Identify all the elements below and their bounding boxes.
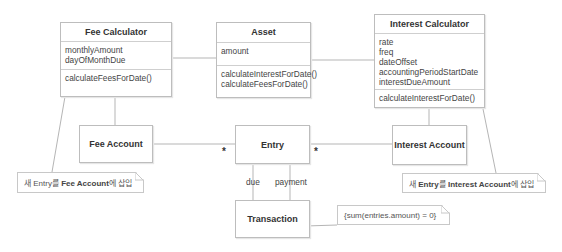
operations-section: calculateInterestForDate() calculateFees… xyxy=(217,66,310,92)
note-text-suffix: 에 삽입 xyxy=(109,179,132,188)
operation: calculateFeesForDate() xyxy=(221,79,306,89)
note-text: 새 Entry를 Interest Account에 삽입 xyxy=(409,178,534,189)
note-text-bold: Entry xyxy=(418,180,438,189)
class-asset[interactable]: Asset amount calculateInterestForDate() … xyxy=(216,22,311,98)
class-fee-calculator[interactable]: Fee Calculator monthlyAmount dayOfMonthD… xyxy=(60,22,172,97)
note-fee-account[interactable]: 새 Entry를 Fee Account에 삽입 xyxy=(17,172,144,193)
attribute: freq xyxy=(379,47,480,57)
attributes-section: rate freq dateOffset accountingPeriodSta… xyxy=(375,34,484,90)
attribute: dayOfMonthDue xyxy=(65,55,167,65)
attribute: interestDueAmount xyxy=(379,77,480,87)
class-interest-account[interactable]: Interest Account xyxy=(392,125,467,165)
note-text-mid: 를 xyxy=(439,180,448,189)
attributes-section: amount xyxy=(217,43,310,66)
class-name: Asset xyxy=(217,23,310,43)
operations-section: calculateInterestForDate() xyxy=(375,90,484,106)
note-fold-icon xyxy=(537,173,546,182)
attribute: accountingPeriodStartDate xyxy=(379,67,480,77)
note-constraint[interactable]: {sum(entries.amount) = 0} xyxy=(337,205,450,225)
note-fold-icon xyxy=(135,172,144,181)
class-name: Fee Account xyxy=(89,139,143,149)
role-label-payment: payment xyxy=(275,177,307,187)
constraint-text: {sum(entries.amount) = 0} xyxy=(344,211,436,220)
multiplicity-interest-entry: * xyxy=(314,146,318,157)
class-transaction[interactable]: Transaction xyxy=(235,200,310,238)
note-text: 새 Entry를 Fee Account에 삽입 xyxy=(24,177,132,188)
attribute: amount xyxy=(221,46,306,56)
note-text-bold2: Interest Account xyxy=(448,180,511,189)
note-text-suffix: 에 삽입 xyxy=(511,180,534,189)
class-name: Interest Account xyxy=(394,140,465,150)
note-text-prefix: 새 xyxy=(409,180,418,189)
attribute: dateOffset xyxy=(379,57,480,67)
note-interest-account[interactable]: 새 Entry를 Interest Account에 삽입 xyxy=(402,173,546,193)
operations-section: calculateFeesForDate() xyxy=(61,70,171,86)
class-name: Transaction xyxy=(247,214,298,224)
attribute: rate xyxy=(379,37,480,47)
class-name: Fee Calculator xyxy=(61,23,171,42)
note-text-bold: Fee Account xyxy=(61,179,109,188)
attribute: monthlyAmount xyxy=(65,45,167,55)
class-name: Interest Calculator xyxy=(375,15,484,34)
operation: calculateFeesForDate() xyxy=(65,73,167,83)
role-label-due: due xyxy=(246,177,260,187)
class-entry[interactable]: Entry xyxy=(235,125,310,164)
attributes-section: monthlyAmount dayOfMonthDue xyxy=(61,42,171,70)
note-text-prefix: 새 Entry를 xyxy=(24,179,61,188)
operation: calculateInterestForDate() xyxy=(221,69,306,79)
multiplicity-fee-entry: * xyxy=(222,146,226,157)
class-name: Entry xyxy=(261,140,284,150)
class-fee-account[interactable]: Fee Account xyxy=(79,125,153,163)
class-interest-calculator[interactable]: Interest Calculator rate freq dateOffset… xyxy=(374,14,485,108)
note-fold-icon xyxy=(441,205,450,214)
operation: calculateInterestForDate() xyxy=(379,93,480,103)
